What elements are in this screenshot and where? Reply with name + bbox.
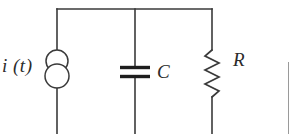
circuit-diagram-figure: i (t) C R <box>0 0 291 134</box>
capacitor-symbol <box>120 68 150 77</box>
circuit-schematic-canvas <box>0 0 291 134</box>
resistor-label: R <box>233 50 245 69</box>
capacitor-label: C <box>157 62 170 81</box>
right-edge-crop-artifact <box>288 62 289 134</box>
resistor-symbol <box>205 50 219 97</box>
current-source-symbol <box>45 50 69 88</box>
resistor-zigzag-path <box>205 50 219 97</box>
current-source-label: i (t) <box>2 56 32 75</box>
current-source-circle-lower <box>45 64 69 88</box>
wires-group <box>57 9 212 134</box>
